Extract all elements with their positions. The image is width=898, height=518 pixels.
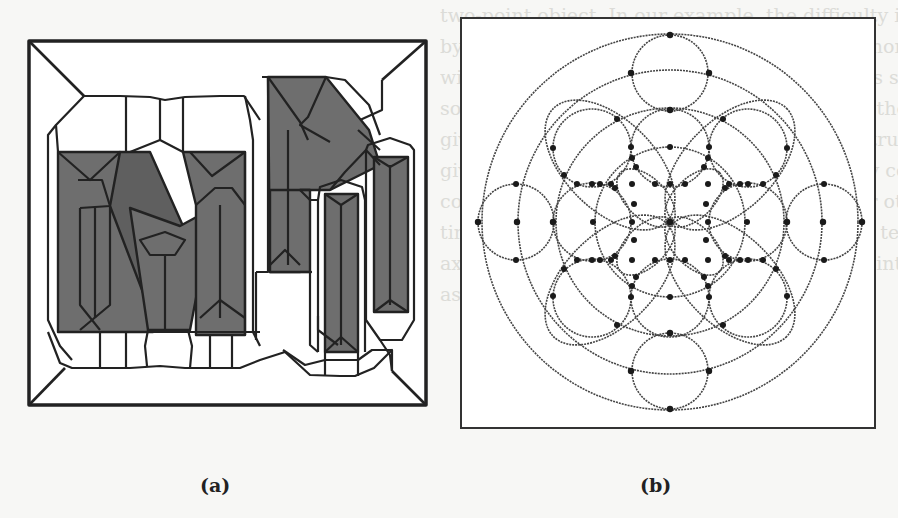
- stained-glass-mi-figure: [0, 0, 450, 430]
- circle-arrangement-figure: [450, 0, 898, 440]
- caption-a: (a): [200, 474, 230, 496]
- caption-b: (b): [640, 474, 671, 496]
